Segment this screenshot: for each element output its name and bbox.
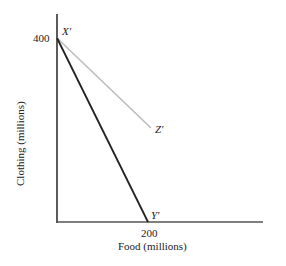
ppf-chart: 400 200 X' Y' Z' Food (millions) Clothin…: [0, 0, 286, 266]
point-label-x: X': [61, 25, 72, 37]
point-label-y: Y': [151, 209, 160, 221]
y-axis-title: Clothing (millions): [14, 101, 27, 186]
line-x-y: [57, 38, 148, 222]
point-label-z: Z': [155, 123, 164, 135]
line-x-z: [57, 38, 151, 128]
x-tick-200: 200: [141, 227, 158, 239]
x-axis-title: Food (millions): [118, 240, 187, 253]
y-tick-400: 400: [33, 32, 50, 44]
